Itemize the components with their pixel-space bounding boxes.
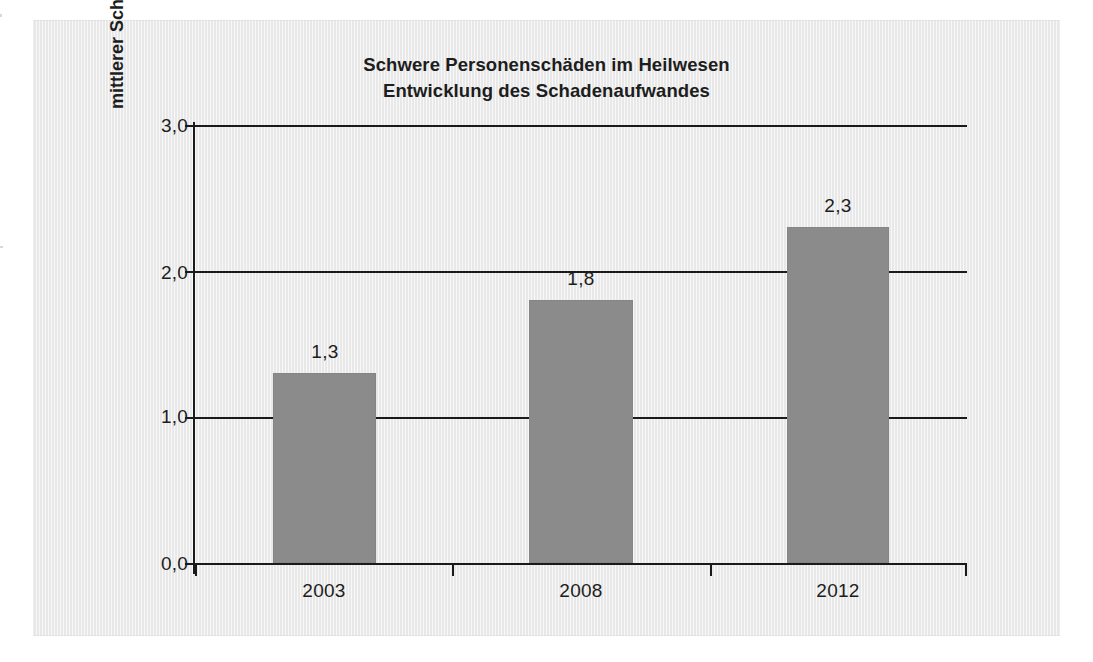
y-tick-label-0: 0,0: [128, 553, 188, 575]
bar-value-label-2008: 1,8: [511, 268, 651, 290]
x-category-label-2003: 2003: [224, 580, 424, 602]
chart-figure: Schwere Personenschäden im Heilwesen Ent…: [0, 0, 1093, 662]
bar-value-label-2003: 1,3: [255, 341, 395, 363]
chart-title: Schwere Personenschäden im Heilwesen: [33, 52, 1060, 78]
x-category-label-2008: 2008: [481, 580, 681, 602]
gridline-3.0: [195, 125, 967, 127]
chart-title-block: Schwere Personenschäden im Heilwesen Ent…: [33, 52, 1060, 104]
y-axis-line: [193, 122, 195, 574]
y-axis-title: mittlerer Schadenaufwand in Milo. Euro: [107, 0, 128, 150]
x-tick-start: [195, 563, 197, 576]
chart-subtitle: Entwicklung des Schadenaufwandes: [33, 78, 1060, 104]
y-tick-label-3: 3,0: [128, 115, 188, 137]
bar-value-label-2012: 2,3: [768, 195, 908, 217]
y-tick-0.0: [185, 563, 195, 565]
bar-2012[interactable]: [787, 227, 889, 563]
x-axis-line: [193, 563, 967, 565]
x-category-label-2012: 2012: [738, 580, 938, 602]
bar-2008[interactable]: [529, 300, 633, 563]
y-tick-2.0: [185, 271, 195, 273]
scan-edge-mark-top: [0, 14, 2, 17]
plot-area: 1,3 1,8 2,3 2003 2008 2012: [195, 125, 967, 563]
bar-2003[interactable]: [273, 373, 376, 563]
y-tick-label-1: 1,0: [128, 406, 188, 428]
y-tick-3.0: [185, 125, 195, 127]
x-tick-2: [710, 563, 712, 576]
x-tick-1: [452, 563, 454, 576]
scan-edge-mark-middle: [0, 246, 3, 248]
y-tick-1.0: [185, 417, 195, 419]
x-tick-end: [965, 563, 967, 576]
y-tick-label-2: 2,0: [128, 262, 188, 284]
